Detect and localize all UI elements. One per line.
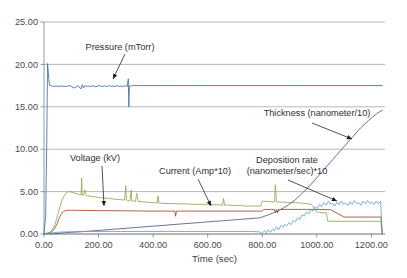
y-tick-label-20.00: 20.00 [15,60,38,70]
y-tick-label-10.00: 10.00 [15,144,38,154]
x-tick-label-600.00: 600.00 [194,240,222,250]
x-tick-label-1000.00: 1000.00 [300,240,333,250]
y-tick-label-0.00: 0.00 [20,229,38,239]
x-tick-label-400.00: 400.00 [139,240,167,250]
series-line-1 [44,178,382,234]
annotation-arrowhead-voltage [102,201,106,206]
x-tick-label-1200.00: 1200.00 [355,240,388,250]
chart-container: 0.005.0010.0015.0020.0025.000.00200.0040… [0,0,407,278]
annotation-label-current: Current (Amp*10) [159,166,231,176]
series-line-0 [44,64,382,234]
annotation-leader-voltage [102,166,104,206]
annotation-arrowhead-thickness [347,135,352,139]
x-axis-title: Time (sec) [192,253,237,264]
annotation-label-deposition: (nanometer/sec)*10 [247,166,328,176]
annotation-label-pressure: Pressure (mTorr) [86,42,155,52]
annotation-label-deposition: Deposition rate [256,155,318,165]
annotation-label-thickness: Thickness (nanometer/10) [264,108,371,118]
y-tick-label-25.00: 25.00 [15,17,38,27]
y-tick-label-15.00: 15.00 [15,102,38,112]
chart-plot: 0.005.0010.0015.0020.0025.000.00200.0040… [0,0,407,278]
x-tick-label-0.00: 0.00 [35,240,53,250]
annotation-leader-thickness [312,123,352,139]
series-line-4 [44,201,382,234]
annotation-label-voltage: Voltage (kV) [70,153,120,163]
y-tick-label-5.00: 5.00 [20,187,38,197]
x-tick-label-800.00: 800.00 [248,240,276,250]
x-tick-label-200.00: 200.00 [85,240,113,250]
